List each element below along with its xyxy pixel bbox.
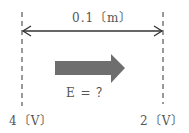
field-label: E = ？ bbox=[66, 83, 109, 100]
right-potential-label: 2〔V〕 bbox=[140, 111, 184, 128]
left-potential-label: 4〔V〕 bbox=[9, 111, 53, 128]
field-direction-arrow-icon bbox=[55, 54, 125, 83]
distance-double-arrow-icon bbox=[23, 26, 162, 36]
distance-label: 0.1〔m〕 bbox=[72, 8, 132, 25]
